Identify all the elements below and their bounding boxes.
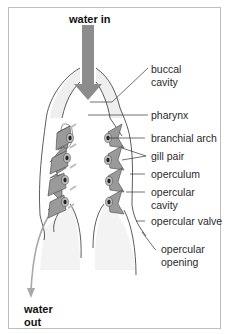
- branchial-arch-label: branchial arch: [151, 132, 217, 144]
- water-out-label-line2: out: [24, 316, 41, 328]
- right-buccal-wall: [96, 68, 124, 118]
- opercular-opening-label-2: opening: [161, 256, 198, 268]
- water-in-arrow: [74, 25, 102, 100]
- pharynx-label: pharynx: [151, 109, 188, 121]
- opercular-valve-label: opercular valve: [151, 215, 222, 227]
- right-lower-fill: [95, 205, 135, 270]
- opercular-opening-label-1: opercular: [161, 243, 205, 255]
- gill-pair-label: gill pair: [151, 150, 184, 162]
- water-in-label: water in: [69, 13, 111, 25]
- buccal-cavity-label-2: cavity: [151, 76, 178, 88]
- operculum-label: operculum: [151, 168, 200, 180]
- opercular-cavity-label-2: cavity: [151, 199, 178, 211]
- opercular-cavity-label-1: opercular: [151, 186, 195, 198]
- water-out-label-line1: water: [24, 303, 53, 315]
- fish-gill-diagram: [0, 0, 227, 334]
- buccal-cavity-label-1: buccal: [151, 63, 181, 75]
- left-buccal-wall: [50, 68, 80, 118]
- left-lower-fill: [40, 205, 80, 270]
